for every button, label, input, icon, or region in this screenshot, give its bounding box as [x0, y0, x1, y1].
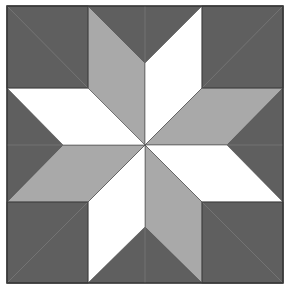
quilt-block — [0, 0, 293, 294]
